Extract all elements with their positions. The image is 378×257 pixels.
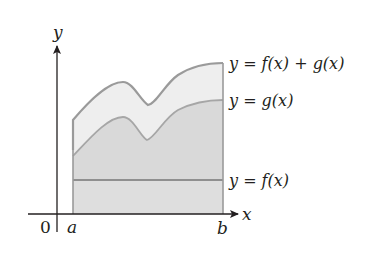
x-axis-label: x: [242, 204, 252, 224]
b-label: b: [217, 218, 228, 238]
origin-label: 0: [40, 217, 51, 237]
sum-curve-label: y = f(x) + g(x): [228, 54, 344, 73]
y-axis-label: y: [52, 22, 63, 42]
area-diagram: y x 0 a b y = f(x) + g(x) y = g(x) y = f…: [0, 0, 378, 257]
a-label: a: [67, 217, 77, 237]
f-curve-label: y = f(x): [228, 171, 289, 190]
g-curve-label: y = g(x): [228, 91, 293, 110]
f-region-fill: [73, 180, 223, 214]
